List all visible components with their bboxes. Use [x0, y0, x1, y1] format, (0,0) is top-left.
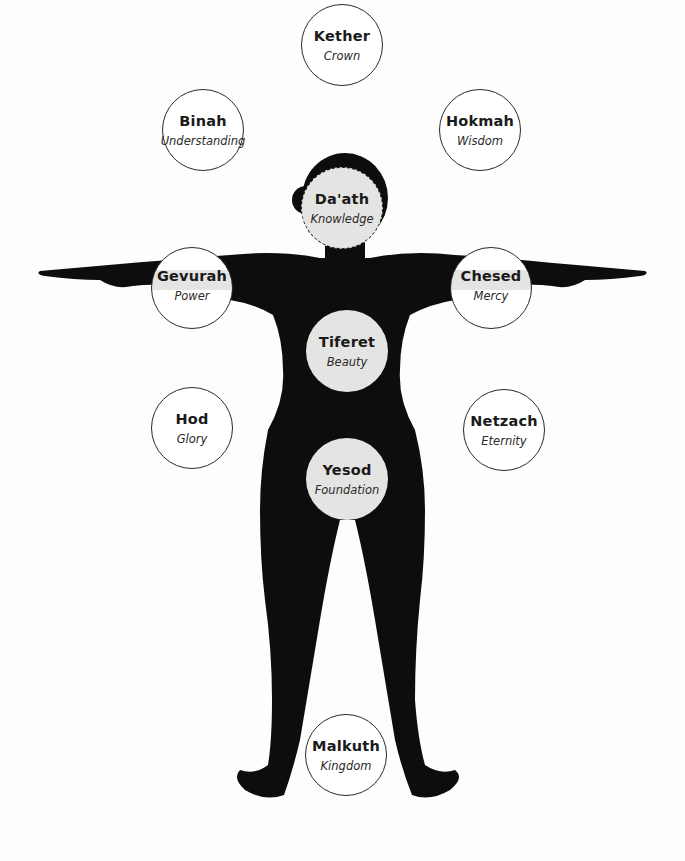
- sephira-hod: Hod Glory: [151, 387, 233, 469]
- sephira-meaning: Glory: [177, 431, 208, 447]
- sephira-name: Yesod: [323, 461, 372, 479]
- sephira-name: Chesed: [461, 267, 522, 285]
- sephira-label: Kether Crown: [314, 27, 370, 64]
- sephira-name: Hokmah: [446, 112, 514, 130]
- sephira-daath: Da'ath Knowledge: [301, 167, 383, 249]
- sephira-label: Hokmah Wisdom: [446, 112, 514, 149]
- sephira-name: Binah: [179, 112, 226, 130]
- sephira-netzach: Netzach Eternity: [463, 389, 545, 471]
- sephira-label: Netzach Eternity: [470, 412, 537, 449]
- sephira-meaning: Wisdom: [457, 133, 503, 149]
- sephira-name: Da'ath: [315, 190, 370, 208]
- sephira-label: Yesod Foundation: [315, 461, 380, 498]
- sephira-label: Da'ath Knowledge: [310, 190, 373, 227]
- sephira-tiferet: Tiferet Beauty: [306, 310, 388, 392]
- sephira-malkuth: Malkuth Kingdom: [305, 714, 387, 796]
- sephira-yesod: Yesod Foundation: [306, 438, 388, 520]
- sephira-name: Tiferet: [319, 333, 375, 351]
- sephira-kether: Kether Crown: [301, 4, 383, 86]
- sephira-meaning: Mercy: [474, 288, 509, 304]
- sephira-meaning: Kingdom: [321, 758, 372, 774]
- sephira-meaning: Foundation: [315, 482, 380, 498]
- sephira-label: Tiferet Beauty: [319, 333, 375, 370]
- sephira-name: Gevurah: [157, 267, 227, 285]
- sephira-binah: Binah Understanding: [162, 89, 244, 171]
- sephira-meaning: Beauty: [327, 354, 368, 370]
- sephira-chesed: Chesed Mercy: [450, 247, 532, 329]
- sephira-name: Malkuth: [312, 737, 380, 755]
- sephira-label: Malkuth Kingdom: [312, 737, 380, 774]
- sephira-hokmah: Hokmah Wisdom: [439, 89, 521, 171]
- sephira-label: Hod Glory: [175, 410, 208, 447]
- sephira-name: Kether: [314, 27, 370, 45]
- sephira-meaning: Power: [174, 288, 209, 304]
- sephira-meaning: Knowledge: [310, 211, 373, 227]
- sephirot-body-diagram: Kether Crown Binah Understanding Hokmah …: [0, 0, 685, 861]
- sephira-meaning: Crown: [324, 48, 361, 64]
- sephira-meaning: Eternity: [481, 433, 526, 449]
- sephira-meaning: Understanding: [161, 133, 246, 149]
- sephira-gevurah: Gevurah Power: [151, 247, 233, 329]
- sephira-name: Hod: [175, 410, 208, 428]
- sephira-name: Netzach: [470, 412, 537, 430]
- sephira-label: Chesed Mercy: [461, 267, 522, 304]
- sephira-label: Binah Understanding: [161, 112, 246, 149]
- sephira-label: Gevurah Power: [157, 267, 227, 304]
